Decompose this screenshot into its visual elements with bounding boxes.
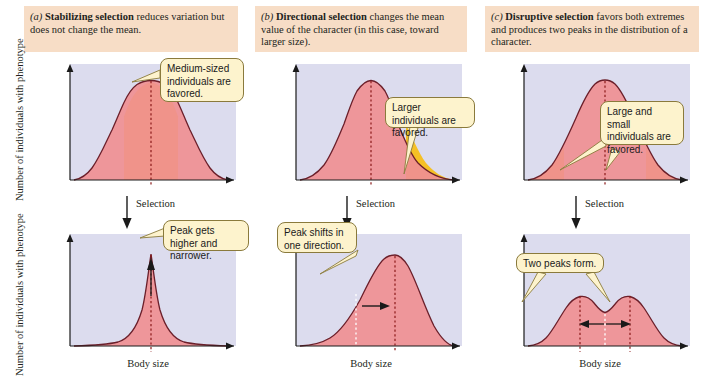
callout-c-bottom: Two peaks form.	[516, 253, 604, 273]
callout-b-bottom: Peak shifts in one direction.	[277, 222, 357, 253]
callout-leader-c-bottom	[522, 270, 612, 306]
y-axis-label-top: Number of individuals with phenotype	[14, 61, 26, 201]
x-axis-label-c: Body size	[540, 358, 660, 369]
callout-a-bottom: Peak gets higher and narrower.	[163, 220, 249, 251]
callout-c-top: Large and small individuals are favored.	[600, 101, 684, 145]
selection-arrow-a	[120, 196, 134, 230]
callout-a-top: Medium-sized individuals are favored.	[160, 58, 244, 102]
panel-c-letter: (c)	[491, 11, 503, 22]
panel-a-heading: Stabilizing selection	[45, 11, 134, 22]
x-axis-label-a: Body size	[88, 358, 208, 369]
callout-leader-b-bottom	[320, 250, 358, 276]
panel-c-heading: Disruptive selection	[505, 11, 593, 22]
selection-label-c: Selection	[585, 198, 624, 209]
panel-b-caption: (b) Directional selection changes the me…	[255, 6, 467, 52]
selection-label-b: Selection	[356, 198, 395, 209]
natural-selection-figure: (a) Stabilizing selection reduces variat…	[0, 0, 707, 383]
x-axis-label-b: Body size	[311, 358, 431, 369]
callout-b-top: Larger individuals are favored.	[385, 97, 475, 128]
y-axis-label-bottom: Number of individuals with phenotype	[14, 236, 26, 376]
selection-label-a: Selection	[136, 198, 175, 209]
panel-b-letter: (b)	[261, 11, 273, 22]
panel-a-letter: (a)	[30, 11, 42, 22]
panel-a-caption: (a) Stabilizing selection reduces variat…	[24, 6, 238, 52]
panel-b-heading: Directional selection	[276, 11, 367, 22]
panel-c-caption: (c) Disruptive selection favors both ext…	[485, 6, 699, 52]
selection-arrow-c	[569, 196, 583, 230]
